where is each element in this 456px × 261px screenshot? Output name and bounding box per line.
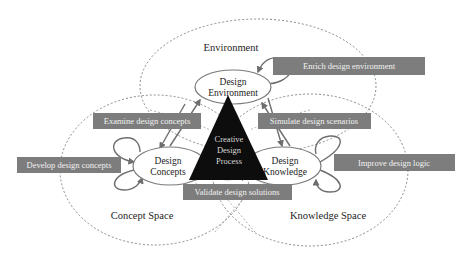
space-label-environment: Environment [204,42,259,53]
node-knowledge-line1: Design [272,156,299,166]
creative-design-process-triangle: Creative Design Process [189,95,268,180]
action-label-simulate: Simulate design scenarios [258,113,371,129]
svg-text:Examine design concepts: Examine design concepts [104,116,190,126]
space-label-concept: Concept Space [111,210,174,221]
space-label-knowledge: Knowledge Space [290,210,366,221]
loop-improve-b [316,170,340,192]
svg-text:Enrich design environment: Enrich design environment [303,61,396,71]
center-line3: Process [216,156,242,166]
node-concepts-line1: Design [155,156,182,166]
svg-text:Improve design logic: Improve design logic [358,158,430,168]
action-label-improve: Improve design logic [334,154,455,171]
svg-text:Develop design concepts: Develop design concepts [27,160,112,170]
center-line1: Creative [215,134,244,144]
action-label-develop: Develop design concepts [17,157,121,173]
action-label-validate: Validate design solutions [183,184,292,200]
node-environment-line1: Design [220,77,247,87]
node-concepts-line2: Concepts [150,167,186,177]
node-environment-line2: Environment [208,88,258,98]
node-knowledge-line2: Knowledge [263,167,307,177]
svg-text:Simulate design scenarios: Simulate design scenarios [270,116,358,126]
action-label-enrich: Enrich design environment [273,57,425,75]
center-line2: Design [217,145,242,155]
svg-text:Validate design solutions: Validate design solutions [195,187,280,197]
creative-design-process-diagram: Design Environment Design Concepts Desig… [0,0,456,261]
node-design-environment: Design Environment [195,70,271,104]
action-label-examine: Examine design concepts [93,113,201,129]
